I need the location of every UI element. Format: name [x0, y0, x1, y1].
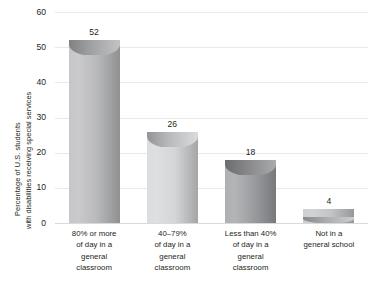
x-axis-category-label: Not in ageneral school: [290, 228, 368, 251]
x-axis-category-label-line: classroom: [133, 262, 211, 273]
y-axis-tick-label: 20: [6, 148, 46, 157]
gridline: [55, 223, 368, 224]
y-axis-tick-label: 60: [6, 8, 46, 17]
y-axis-tick-label: 30: [6, 113, 46, 122]
bar-value-label: 4: [326, 197, 331, 206]
x-axis-category-label: 80% or moreof day in ageneralclassroom: [55, 228, 133, 273]
x-axis-category-label-line: general: [55, 251, 133, 262]
gridline: [55, 12, 368, 13]
x-axis-category-label-line: Not in a: [290, 228, 368, 239]
bar-chart: Percentage of U.S. students with disabil…: [0, 0, 377, 290]
bar[interactable]: [69, 40, 120, 223]
x-axis-category-label-line: classroom: [212, 262, 290, 273]
y-axis-tick-label: 40: [6, 78, 46, 87]
y-axis-tick-label: 50: [6, 43, 46, 52]
bar-top-cap: [303, 209, 354, 215]
x-axis-category-label: Less than 40%of day in ageneralclassroom: [212, 228, 290, 273]
bar-top-cap: [225, 160, 276, 175]
x-axis-category-label-line: general: [133, 251, 211, 262]
x-axis-category-label-line: of day in a: [133, 239, 211, 250]
x-axis-tick-labels: 80% or moreof day in ageneralclassroom40…: [55, 228, 368, 290]
x-axis-category-label-line: of day in a: [55, 239, 133, 250]
bar-value-label: 26: [168, 120, 178, 129]
x-axis-category-label-line: of day in a: [212, 239, 290, 250]
bar-top-cap: [69, 40, 120, 55]
x-axis-category-label-line: classroom: [55, 262, 133, 273]
bar-top-cap: [147, 132, 198, 147]
x-axis-category-label-line: 40–79%: [133, 228, 211, 239]
bar-body: [69, 40, 120, 223]
bar[interactable]: [225, 160, 276, 223]
x-axis-category-label-line: general school: [290, 239, 368, 250]
y-axis-title-line-1: Percentage of U.S. students: [13, 122, 22, 216]
bar-value-label: 52: [89, 28, 99, 37]
x-axis-category-label: 40–79%of day in ageneralclassroom: [133, 228, 211, 273]
bar-value-label: 18: [246, 148, 256, 157]
bar[interactable]: [147, 132, 198, 223]
x-axis-category-label-line: 80% or more: [55, 228, 133, 239]
x-axis-category-label-line: general: [212, 251, 290, 262]
plot-area: 0102030405060 5226184: [55, 12, 368, 223]
y-axis-tick-label: 10: [6, 183, 46, 192]
bar[interactable]: [303, 209, 354, 223]
x-axis-category-label-line: Less than 40%: [212, 228, 290, 239]
y-axis-tick-label: 0: [6, 219, 46, 228]
